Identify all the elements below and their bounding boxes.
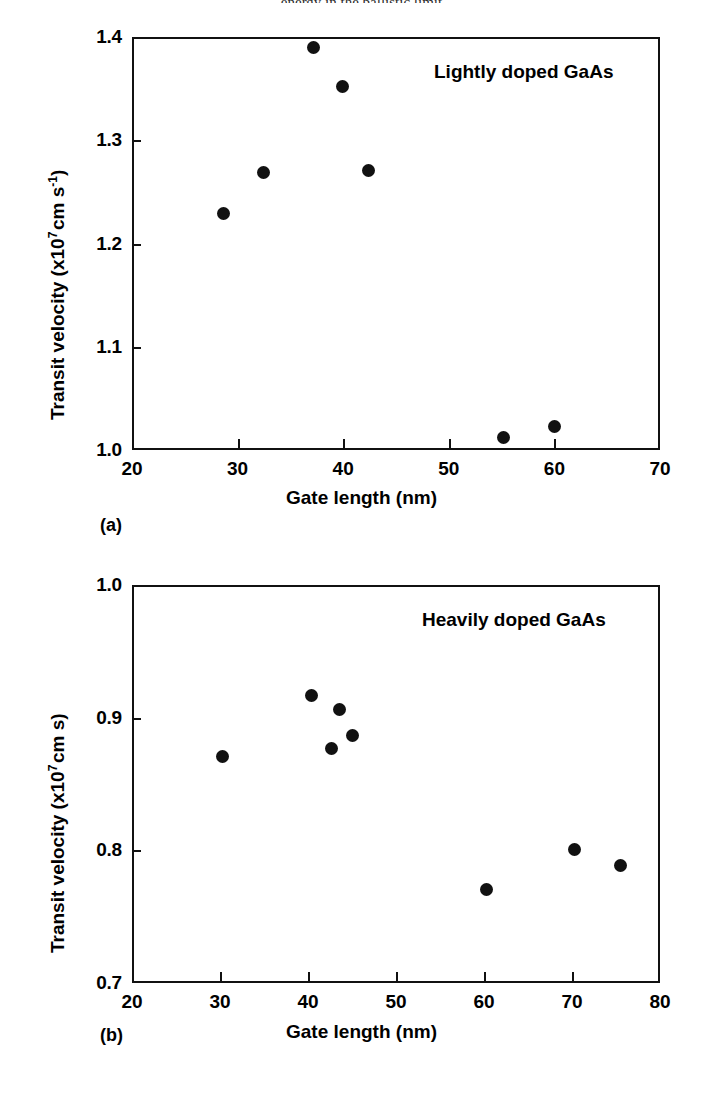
y-tick-label: 1.3 xyxy=(96,129,122,151)
x-tick-mark xyxy=(220,972,222,981)
data-point xyxy=(568,843,581,856)
y-tick-label: 1.0 xyxy=(96,439,122,461)
data-point xyxy=(336,80,349,93)
data-point xyxy=(362,164,375,177)
data-point xyxy=(548,420,561,433)
subplot-caption-a: (a) xyxy=(100,515,122,536)
x-tick-mark xyxy=(308,972,310,981)
x-tick-label: 70 xyxy=(561,991,582,1013)
chart-panel-b: Transit velocity (x107 cm s) Heavily dop… xyxy=(0,553,723,1106)
x-tick-label: 70 xyxy=(649,458,670,480)
data-point xyxy=(346,729,359,742)
data-point xyxy=(333,703,346,716)
y-tick-label: 0.7 xyxy=(96,972,122,994)
y-tick-mark xyxy=(132,140,141,142)
subplot-caption-b: (b) xyxy=(100,1025,123,1046)
x-tick-mark xyxy=(572,972,574,981)
x-tick-mark xyxy=(396,972,398,981)
data-point xyxy=(257,166,270,179)
data-point xyxy=(307,41,320,54)
data-point xyxy=(305,689,318,702)
x-tick-label: 20 xyxy=(121,991,142,1013)
plot-area-a: Lightly doped GaAs xyxy=(132,37,660,450)
x-tick-label: 40 xyxy=(297,991,318,1013)
x-tick-mark xyxy=(449,439,451,448)
x-tick-label: 30 xyxy=(209,991,230,1013)
data-point xyxy=(216,750,229,763)
y-tick-label: 1.1 xyxy=(96,336,122,358)
y-axis-title-b: Transit velocity (x107 cm s) xyxy=(46,713,69,953)
x-tick-mark xyxy=(484,972,486,981)
x-axis-title-a: Gate length (nm) xyxy=(0,487,723,509)
x-tick-label: 40 xyxy=(333,458,354,480)
chart-panel-a: Transit velocity (x107 cm s-1) Lightly d… xyxy=(0,0,723,553)
data-point xyxy=(614,859,627,872)
x-tick-label: 50 xyxy=(385,991,406,1013)
data-point xyxy=(497,431,510,444)
y-tick-mark xyxy=(132,718,141,720)
x-tick-label: 60 xyxy=(473,991,494,1013)
y-axis-title-a-text: Transit velocity (x107 cm s-1) xyxy=(47,170,68,420)
y-tick-mark xyxy=(132,244,141,246)
annotation-b: Heavily doped GaAs xyxy=(422,609,606,631)
x-tick-label: 60 xyxy=(544,458,565,480)
x-tick-mark xyxy=(343,439,345,448)
data-point xyxy=(480,883,493,896)
y-axis-title-b-text: Transit velocity (x107 cm s) xyxy=(47,713,68,953)
y-axis-title-a: Transit velocity (x107 cm s-1) xyxy=(46,170,69,420)
x-tick-label: 50 xyxy=(438,458,459,480)
x-tick-label: 80 xyxy=(649,991,670,1013)
data-point xyxy=(217,207,230,220)
annotation-a: Lightly doped GaAs xyxy=(434,61,613,83)
y-tick-label: 1.0 xyxy=(96,574,122,596)
data-point xyxy=(325,742,338,755)
x-tick-label: 20 xyxy=(121,458,142,480)
y-tick-label: 0.8 xyxy=(96,839,122,861)
y-tick-label: 1.2 xyxy=(96,233,122,255)
plot-area-b: Heavily doped GaAs xyxy=(132,585,660,983)
figure-root: energy in the ballistic limit Transit ve… xyxy=(0,0,723,1106)
data-points-b xyxy=(134,587,658,981)
x-tick-mark xyxy=(238,439,240,448)
x-tick-label: 30 xyxy=(227,458,248,480)
y-tick-label: 0.9 xyxy=(96,707,122,729)
y-tick-mark xyxy=(132,850,141,852)
x-tick-mark xyxy=(554,439,556,448)
y-tick-label: 1.4 xyxy=(96,26,122,48)
y-tick-mark xyxy=(132,347,141,349)
data-points-a xyxy=(134,39,658,448)
